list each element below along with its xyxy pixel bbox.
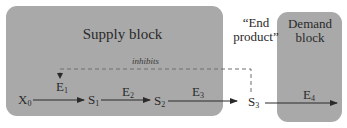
- feedback-dashed-line: [60, 69, 251, 92]
- demand-line1: Demand: [279, 17, 341, 31]
- demand-block-label: Demand block: [279, 17, 341, 45]
- demand-line2: block: [279, 31, 341, 45]
- enzyme-e3: E3: [192, 85, 204, 103]
- node-s1: S1: [88, 93, 99, 111]
- node-x0: X0: [18, 93, 31, 111]
- supply-block-label: Supply block: [75, 26, 170, 42]
- end-product-label: “End product”: [228, 16, 284, 44]
- inhibits-label: inhibits: [132, 56, 159, 66]
- end-product-line1: “End: [228, 16, 284, 30]
- enzyme-e2: E2: [122, 85, 134, 103]
- node-s2: S2: [154, 94, 165, 112]
- enzyme-e4: E4: [303, 88, 315, 106]
- end-product-line2: product”: [228, 30, 284, 44]
- node-s3: S3: [248, 95, 259, 113]
- enzyme-e1: E1: [56, 80, 68, 98]
